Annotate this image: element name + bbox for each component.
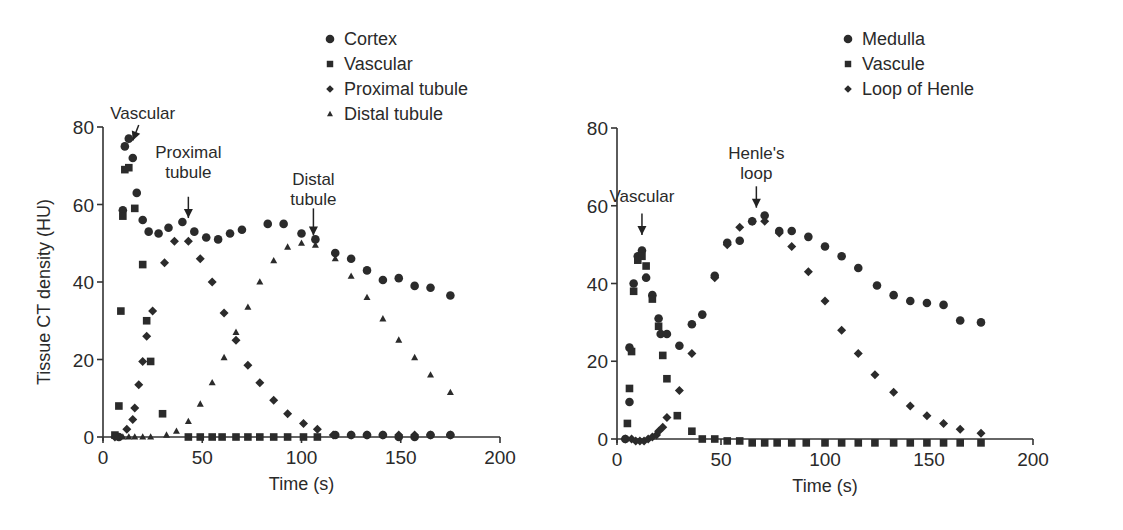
diamond-marker (130, 403, 139, 412)
y-tick-label: 60 (587, 196, 608, 217)
y-tick-label: 40 (587, 274, 608, 295)
circle-marker (625, 398, 634, 407)
square-marker (788, 439, 796, 447)
diamond-marker (662, 413, 671, 422)
legend-label: Vascular (344, 54, 413, 74)
circle-marker (410, 282, 419, 291)
diamond-marker (208, 278, 217, 287)
x-axis-label: Time (s) (792, 476, 857, 496)
annotation: Vascular (110, 104, 175, 140)
square-marker (196, 433, 204, 441)
circle-marker (837, 252, 846, 261)
circle-marker (226, 229, 235, 238)
legend-item: Vascule (845, 54, 925, 74)
triangle-marker (298, 239, 305, 245)
series-distal-tubule (113, 239, 453, 439)
y-tick-label: 0 (83, 427, 94, 448)
diamond-marker (821, 296, 830, 305)
triangle-marker (364, 294, 371, 300)
diamond-marker (347, 431, 356, 440)
annotation: Vascular (610, 187, 675, 235)
triangle-marker (185, 418, 192, 424)
circle-marker (873, 281, 882, 290)
circle-marker (804, 233, 813, 242)
square-marker (628, 348, 636, 356)
y-tick-label: 0 (597, 429, 608, 450)
circle-marker (923, 299, 932, 308)
diamond-marker (446, 431, 455, 440)
circle-marker (363, 266, 372, 275)
square-marker (185, 433, 193, 441)
annotation: Distaltubule (290, 170, 336, 235)
legend-label: Loop of Henle (862, 79, 974, 99)
square-marker (977, 439, 985, 447)
y-tick-label: 60 (73, 195, 94, 216)
x-tick-label: 200 (484, 447, 516, 468)
circle-marker (821, 242, 830, 251)
annotation-label: Vascular (110, 104, 175, 123)
diamond-icon (326, 85, 334, 93)
legend-item: Cortex (326, 29, 397, 49)
square-marker (300, 433, 308, 441)
legend-label: Distal tubule (344, 104, 443, 124)
triangle-marker (244, 303, 251, 309)
triangle-marker (447, 389, 454, 395)
diamond-marker (255, 378, 264, 387)
circle-marker (787, 227, 796, 236)
diamond-marker (269, 396, 278, 405)
circle-marker (854, 264, 863, 273)
circle-marker (144, 227, 153, 236)
annotation: Proximaltubule (155, 143, 221, 218)
square-marker (871, 439, 879, 447)
square-marker (736, 437, 744, 445)
circle-marker (214, 235, 223, 244)
diamond-marker (977, 429, 986, 438)
diamond-marker (196, 254, 205, 263)
series-loop-of-henle (621, 217, 986, 446)
circle-marker (297, 229, 306, 238)
square-marker (314, 433, 322, 441)
legend-item: Vascular (327, 54, 413, 74)
arrowhead-icon (752, 199, 761, 208)
triangle-marker (197, 400, 204, 406)
diamond-marker (787, 242, 796, 251)
annotation-label: tubule (165, 163, 211, 182)
x-tick-label: 150 (913, 449, 945, 470)
circle-marker (394, 274, 403, 283)
legend-label: Vascule (862, 54, 925, 74)
y-tick-label: 80 (587, 118, 608, 139)
diamond-marker (939, 419, 948, 428)
diamond-icon (844, 85, 852, 93)
square-icon (327, 61, 333, 67)
diamond-marker (184, 237, 193, 246)
square-marker (642, 262, 650, 270)
square-marker (711, 435, 719, 443)
square-marker (125, 164, 133, 172)
diamond-marker (889, 388, 898, 397)
square-icon (845, 61, 851, 67)
square-marker (723, 437, 731, 445)
y-tick-label: 20 (587, 351, 608, 372)
diamond-marker (426, 431, 435, 440)
triangle-marker (395, 336, 402, 342)
triangle-marker (379, 315, 386, 321)
right-chart-panel: 050100150200020406080Time (s)MedullaVasc… (587, 29, 1049, 496)
circle-marker (202, 233, 211, 242)
square-marker (115, 402, 123, 410)
diamond-marker (922, 411, 931, 420)
circle-marker (675, 341, 684, 350)
circle-marker (939, 301, 948, 310)
left-chart-panel: 050100150200020406080Time (s)Tissue CT d… (34, 29, 516, 494)
legend-label: Medulla (862, 29, 926, 49)
triangle-marker (209, 379, 216, 385)
square-marker (117, 307, 125, 315)
x-tick-label: 200 (1017, 449, 1049, 470)
legend-item: Proximal tubule (326, 79, 468, 99)
diamond-marker (956, 425, 965, 434)
figure-canvas: 050100150200020406080Time (s)Tissue CT d… (0, 0, 1123, 530)
diamond-marker (231, 336, 240, 345)
diamond-marker (134, 380, 143, 389)
legend: CortexVascularProximal tubuleDistal tubu… (326, 29, 468, 124)
legend: MedullaVasculeLoop of Henle (844, 29, 974, 99)
diamond-marker (854, 349, 863, 358)
